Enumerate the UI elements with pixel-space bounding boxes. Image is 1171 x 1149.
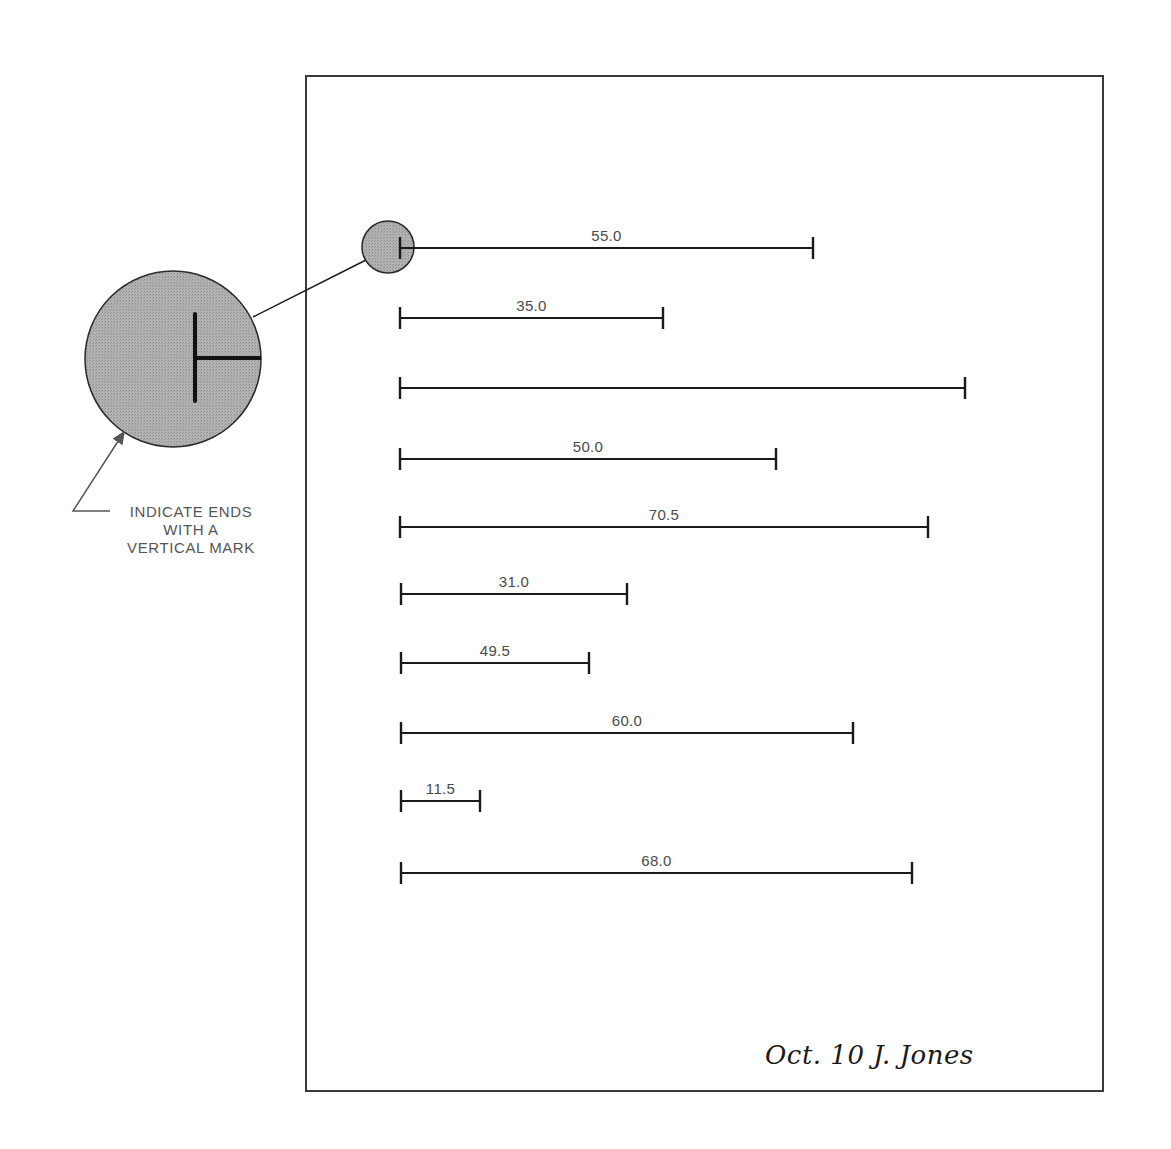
diagram-canvas xyxy=(0,0,1171,1149)
line-length-label: 31.0 xyxy=(499,573,529,590)
callout-line-1: INDICATE ENDS xyxy=(106,503,276,521)
measured-lines-group xyxy=(400,237,965,884)
line-length-label: 68.0 xyxy=(641,852,671,869)
line-length-label: 60.0 xyxy=(612,712,642,729)
magnifier-connector-line xyxy=(253,260,366,317)
line-length-label: 11.5 xyxy=(426,780,455,797)
callout-label: INDICATE ENDS WITH A VERTICAL MARK xyxy=(106,503,276,557)
measured-line xyxy=(400,377,965,399)
line-length-label: 55.0 xyxy=(591,227,621,244)
signature-date: Oct. 10 J. Jones xyxy=(765,1040,974,1070)
callout-line-2: WITH A xyxy=(106,521,276,539)
callout-line-3: VERTICAL MARK xyxy=(106,539,276,557)
line-length-label: 35.0 xyxy=(516,297,546,314)
page-border xyxy=(306,76,1103,1091)
line-length-label: 49.5 xyxy=(480,642,510,659)
line-length-label: 50.0 xyxy=(573,438,603,455)
callout-arrow xyxy=(73,432,124,511)
line-length-label: 70.5 xyxy=(649,506,679,523)
